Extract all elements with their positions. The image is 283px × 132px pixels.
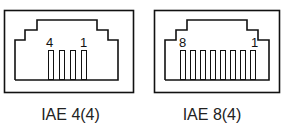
connector-caption: IAE 4(4): [0, 106, 141, 124]
connector-caption: IAE 8(4): [141, 106, 283, 124]
connector-iae-4-4: 4 1 IAE 4(4): [0, 0, 141, 132]
pin-label-left: 8: [179, 35, 186, 50]
pin-label-left: 4: [46, 35, 53, 50]
connector-iae-8-4: 8 1 IAE 8(4): [141, 0, 283, 132]
pin-label-right: 1: [251, 35, 258, 50]
pin-label-right: 1: [80, 35, 87, 50]
